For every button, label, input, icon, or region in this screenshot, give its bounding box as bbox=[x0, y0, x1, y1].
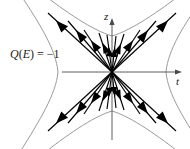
horizontal-axis-arrowhead bbox=[175, 69, 182, 74]
trajectory-arrowhead-ul-3 bbox=[91, 41, 101, 53]
trajectories-lower-left bbox=[48, 72, 113, 131]
phase-portrait-figure: z t Q(E) = −1 bbox=[0, 0, 190, 149]
trajectory-arrowhead-ul-1 bbox=[56, 20, 68, 32]
trajectories-upper-right bbox=[111, 13, 176, 72]
annotation-q-symbol: Q bbox=[10, 47, 19, 61]
q-of-e-annotation: Q(E) = −1 bbox=[10, 47, 60, 61]
trajectory-arrowhead-lr-1 bbox=[156, 111, 168, 123]
trajectory-arrowhead-ur-1 bbox=[156, 20, 168, 32]
trajectory-arrowhead-ll-3 bbox=[91, 92, 101, 104]
annotation-equals-value: = −1 bbox=[34, 47, 60, 61]
horizontal-axis-label-t: t bbox=[176, 75, 180, 87]
vertical-axis-label-z: z bbox=[103, 10, 109, 22]
trajectories-lower-right bbox=[111, 72, 176, 131]
trajectory-arrowhead-ur-3 bbox=[123, 41, 133, 53]
trajectory-arrowhead-lr-3 bbox=[123, 92, 133, 104]
vertical-axis-arrowhead bbox=[109, 18, 114, 25]
phase-portrait-canvas: z t Q(E) = −1 bbox=[0, 0, 190, 149]
trajectory-arrowhead-ll-1 bbox=[56, 111, 68, 123]
